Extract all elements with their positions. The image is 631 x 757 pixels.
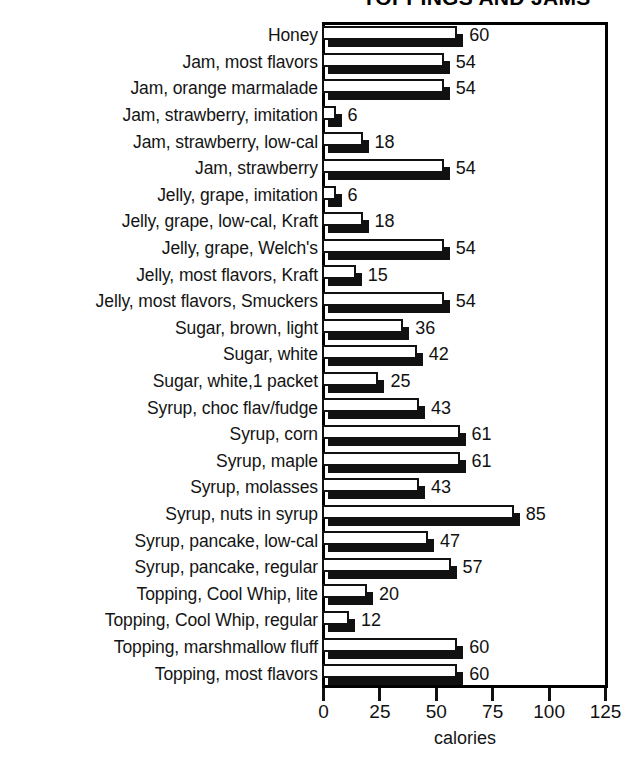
bar-value-label: 60 [469,636,489,657]
bar-group: 85 [322,501,622,528]
bar-rows: Honey60Jam, most flavors54Jam, orange ma… [0,22,631,688]
bar-row: Jam, orange marmalade54 [0,75,631,102]
bar-row: Jam, most flavors54 [0,49,631,76]
bar [322,26,457,40]
category-label: Syrup, maple [216,450,318,471]
bar-group: 43 [322,474,622,501]
bar-row: Topping, Cool Whip, regular12 [0,607,631,634]
bar-group: 54 [322,288,622,315]
bar [322,452,460,466]
category-label: Syrup, molasses [190,477,318,498]
bar-value-label: 18 [375,211,395,232]
bar-value-label: 54 [456,51,476,72]
bar [322,106,336,120]
category-label: Jelly, grape, low-cal, Kraft [122,211,318,232]
bar-value-label: 54 [456,158,476,179]
bar-value-label: 43 [431,477,451,498]
bar-row: Topping, Cool Whip, lite20 [0,580,631,607]
bar-value-label: 54 [456,78,476,99]
category-label: Sugar, brown, light [175,317,318,338]
bar-group: 60 [322,22,622,49]
bar [322,584,367,598]
bar-value-label: 54 [456,291,476,312]
bar-value-label: 60 [469,25,489,46]
bar-row: Jelly, most flavors, Kraft15 [0,261,631,288]
category-label: Sugar, white,1 packet [153,371,318,392]
chart-title: TOPPINGS AND JAMS [322,0,631,10]
bar [322,212,363,226]
bar [322,638,457,652]
bar [322,478,419,492]
bar [322,265,356,279]
bar-value-label: 20 [379,583,399,604]
bar-value-label: 12 [361,610,381,631]
category-label: Jelly, grape, Welch's [162,238,318,259]
bar-group: 12 [322,607,622,634]
x-axis-title: calories [322,728,608,749]
bar-group: 43 [322,394,622,421]
bar-value-label: 36 [415,317,435,338]
bar-group: 18 [322,208,622,235]
bar-value-label: 57 [463,557,483,578]
bar-row: Jelly, grape, Welch's54 [0,235,631,262]
bar-group: 15 [322,261,622,288]
x-axis-tick [491,688,494,701]
category-label: Jam, strawberry, imitation [123,105,318,126]
x-axis-tick-label: 75 [482,701,503,723]
bar-value-label: 18 [375,131,395,152]
category-label: Topping, Cool Whip, lite [137,583,318,604]
bar-group: 47 [322,527,622,554]
bar-group: 36 [322,315,622,342]
bar [322,505,514,519]
bar-value-label: 61 [472,424,492,445]
category-label: Syrup, pancake, low-cal [135,530,318,551]
category-label: Syrup, nuts in syrup [165,503,318,524]
bar [322,611,349,625]
bar [322,558,451,572]
bar-row: Jam, strawberry54 [0,155,631,182]
bar-row: Jelly, grape, low-cal, Kraft18 [0,208,631,235]
bar [322,292,444,306]
bar-group: 25 [322,368,622,395]
bar-row: Topping, marshmallow fluff60 [0,634,631,661]
bar-chart: TOPPINGS AND JAMS Honey60Jam, most flavo… [0,0,631,757]
bar-value-label: 6 [348,184,358,205]
bar-group: 42 [322,341,622,368]
bar-group: 61 [322,421,622,448]
bar-group: 60 [322,634,622,661]
bar [322,664,457,678]
bar-group: 54 [322,49,622,76]
bar [322,79,444,93]
bar [322,53,444,67]
bar [322,239,444,253]
bar-group: 6 [322,182,622,209]
x-axis-tick-label: 0 [318,701,329,723]
x-axis-tick [548,688,551,701]
category-label: Jelly, most flavors, Smuckers [96,291,318,312]
x-axis-tick-label: 50 [426,701,447,723]
bar [322,345,417,359]
bar-row: Jam, strawberry, low-cal18 [0,128,631,155]
bar-group: 61 [322,448,622,475]
bar-row: Syrup, maple61 [0,448,631,475]
bar-row: Syrup, corn61 [0,421,631,448]
bar [322,319,403,333]
category-label: Topping, most flavors [155,663,318,684]
category-label: Syrup, pancake, regular [134,557,318,578]
category-label: Jelly, grape, imitation [157,184,318,205]
bar-row: Sugar, white,1 packet25 [0,368,631,395]
bar-group: 18 [322,128,622,155]
category-label: Jam, strawberry [195,158,318,179]
bar [322,372,378,386]
bar-value-label: 61 [472,450,492,471]
x-axis-tick-label: 100 [533,701,565,723]
category-label: Topping, marshmallow fluff [114,636,318,657]
bar-value-label: 43 [431,397,451,418]
category-label: Jam, strawberry, low-cal [133,131,318,152]
bar-group: 6 [322,102,622,129]
category-label: Jelly, most flavors, Kraft [136,264,318,285]
x-axis-tick-label: 125 [590,701,622,723]
bar-group: 57 [322,554,622,581]
bar-group: 54 [322,155,622,182]
x-axis-tick [378,688,381,701]
